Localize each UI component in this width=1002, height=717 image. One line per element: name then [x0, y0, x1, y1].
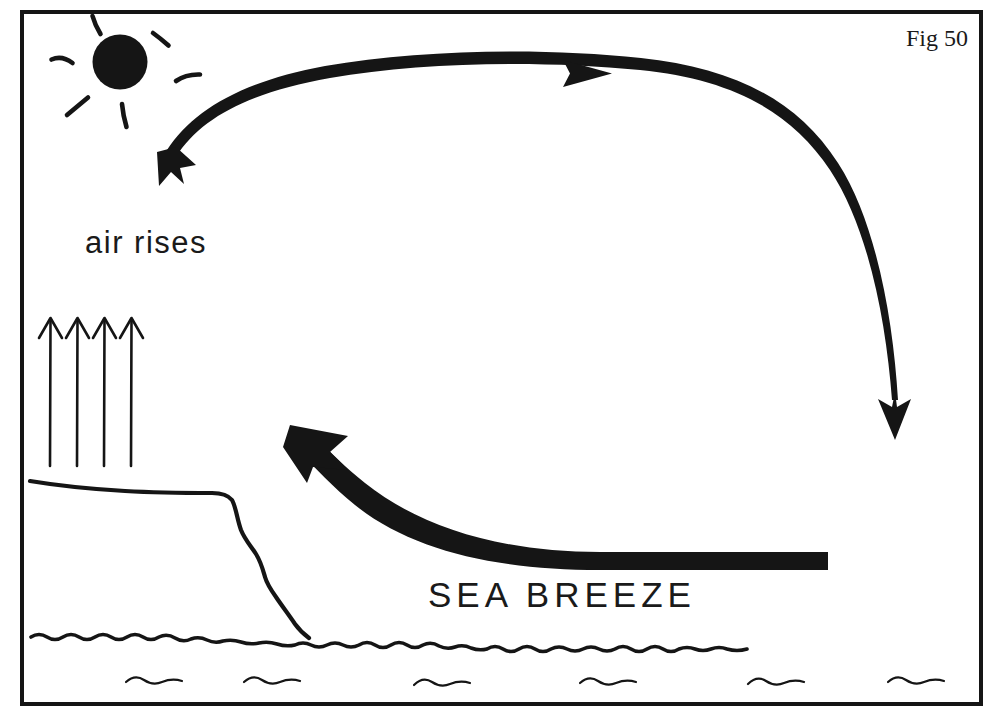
sea-breeze-arrow: [283, 425, 828, 570]
sun-icon: [52, 16, 201, 127]
upper-arrow-tip-head: [878, 392, 911, 440]
sun-disc: [93, 35, 148, 90]
upper-circulation-arrow: [157, 51, 911, 440]
sea-breeze-arrow-body: [300, 438, 828, 570]
label-air-rises: air rises: [85, 225, 207, 260]
sea-surface-line: [31, 635, 747, 652]
sea-breeze-diagram: Fig 50: [0, 0, 1002, 717]
rising-air-arrows: [39, 318, 143, 466]
figure-container: Fig 50: [0, 0, 1002, 717]
land-profile: [30, 481, 309, 638]
figure-number-label: Fig 50: [906, 25, 968, 51]
label-sea-breeze: SEA BREEZE: [428, 575, 696, 614]
upper-arrow-tail-head: [157, 147, 196, 186]
sea-waves: [126, 677, 944, 685]
upper-arrow-body: [167, 51, 898, 400]
